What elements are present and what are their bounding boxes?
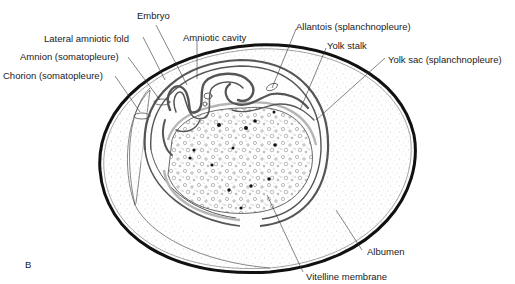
label-amniotic-cavity: Amniotic cavity (183, 32, 246, 43)
label-lateral-amniotic-fold: Lateral amniotic fold (44, 33, 129, 44)
label-albumen: Albumen (367, 246, 405, 257)
panel-label: B (25, 259, 31, 270)
label-yolk-sac: Yolk sac (splanchnopleure) (388, 54, 502, 65)
label-allantois: Allantois (splanchnopleure) (296, 21, 411, 32)
label-chorion: Chorion (somatopleure) (3, 70, 103, 81)
label-embryo: Embryo (137, 10, 170, 21)
label-amnion: Amnion (somatopleure) (20, 51, 119, 62)
label-yolk-stalk: Yolk stalk (327, 40, 367, 51)
label-vitelline-membrane: Vitelline membrane (306, 271, 387, 282)
yolk-mass (168, 107, 312, 213)
